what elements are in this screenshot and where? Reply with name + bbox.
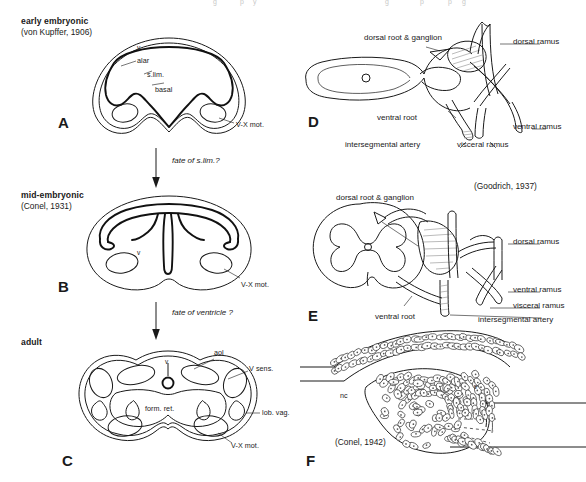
panel-c-label-aol: aol bbox=[214, 348, 224, 357]
transition-arrow-2 bbox=[148, 302, 164, 340]
stage-citation-mid-embryonic: (Conel, 1931) bbox=[21, 201, 72, 211]
panel-a-label-sulcus-limitans: s.lim. bbox=[147, 70, 164, 79]
panel-letter-d: D bbox=[308, 113, 319, 130]
scan-artifact-strip: g p y g p p g - bbox=[0, 0, 586, 7]
transition-note-2: fate of ventricle ? bbox=[172, 308, 233, 317]
panel-e-citation: (Goodrich, 1937) bbox=[474, 181, 537, 191]
panel-c-label-lob-vag: lob. vag. bbox=[262, 408, 290, 417]
panel-a-label-alar: alar bbox=[137, 56, 149, 65]
panel-letter-c: C bbox=[62, 452, 73, 469]
panel-a-label-basal: basal bbox=[155, 85, 172, 94]
panel-c-label-form-ret: form. ret. bbox=[145, 404, 174, 413]
transition-arrow-1 bbox=[148, 148, 164, 188]
panel-d-drawing bbox=[300, 12, 586, 152]
panel-a-label-motor: V-X mot. bbox=[236, 120, 264, 129]
panel-letter-f: F bbox=[306, 452, 315, 469]
panel-e-label-ventral-root: ventral root bbox=[375, 312, 415, 321]
stage-title-adult: adult bbox=[21, 337, 42, 347]
transition-note-1: fate of s.lim.? bbox=[172, 156, 220, 165]
panel-a-label-ventricle: v bbox=[137, 44, 140, 51]
panel-b-drawing bbox=[74, 192, 264, 297]
figure-canvas: g p y g p p g - early embryonic (von Kup… bbox=[0, 0, 586, 482]
panel-f-citation: (Conel, 1942) bbox=[335, 437, 386, 447]
panel-d-label-ventral-ramus: ventral ramus bbox=[513, 122, 561, 131]
panel-b-label-motor: V-X mot. bbox=[241, 280, 269, 289]
panel-d-label-dorsal-root-ganglion: dorsal root & ganglion bbox=[364, 33, 442, 42]
panel-e-drawing bbox=[300, 196, 586, 331]
panel-f-label-ventricle: v bbox=[474, 383, 477, 390]
panel-d-label-dorsal-ramus: dorsal ramus bbox=[513, 37, 559, 46]
panel-f-drawing bbox=[300, 325, 586, 475]
panel-e-label-dorsal-ramus: dorsal ramus bbox=[513, 237, 559, 246]
panel-e-label-visceral-ramus: visceral ramus bbox=[513, 301, 565, 310]
panel-e-label-intersegmental-artery: intersegmental artery bbox=[478, 315, 553, 324]
panel-letter-e: E bbox=[308, 307, 318, 324]
panel-b-label-ventricle: v bbox=[137, 249, 140, 256]
panel-d-label-intersegmental-artery: intersegmental artery bbox=[345, 140, 420, 149]
panel-e-label-dorsal-root-ganglion: dorsal root & ganglion bbox=[336, 193, 414, 202]
panel-e-label-ventral-ramus: ventral ramus bbox=[513, 285, 561, 294]
panel-c-label-motor: V-X mot. bbox=[231, 441, 259, 450]
panel-d-label-visceral-ramus: visceral ramus bbox=[457, 140, 509, 149]
panel-letter-a: A bbox=[58, 114, 69, 131]
panel-c-label-ventricle: v bbox=[165, 358, 168, 365]
stage-title-early-embryonic: early embryonic bbox=[21, 16, 88, 26]
panel-d-label-ventral-root: ventral root bbox=[377, 113, 417, 122]
panel-f-label-notochord: nc bbox=[340, 391, 348, 400]
panel-letter-b: B bbox=[58, 278, 69, 295]
panel-c-label-v-sens: V sens. bbox=[249, 364, 273, 373]
